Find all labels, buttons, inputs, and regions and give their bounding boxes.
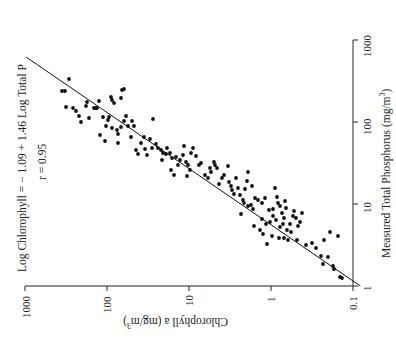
data-point — [258, 228, 262, 232]
data-point — [242, 201, 246, 205]
data-point — [67, 77, 71, 81]
data-point — [189, 151, 193, 155]
data-point — [74, 109, 78, 113]
regression-equation: Log Chlorophyll = − 1.09 + 1.46 Log Tota… — [16, 64, 28, 272]
chlorophyll-axis-title-text: Chlorophyll a (mg/m — [131, 316, 228, 328]
data-point — [136, 152, 140, 156]
data-point — [176, 163, 180, 167]
data-point — [243, 187, 247, 191]
data-point — [150, 146, 154, 150]
data-point — [271, 214, 275, 218]
data-point — [98, 133, 102, 137]
y-tick-100: 100 — [101, 297, 113, 314]
data-point — [292, 209, 296, 213]
data-point — [178, 158, 182, 162]
data-point — [215, 166, 219, 170]
data-point — [101, 115, 105, 119]
data-point — [126, 124, 130, 128]
data-point — [322, 238, 326, 242]
data-point — [222, 173, 226, 177]
scatter-chart — [0, 0, 396, 345]
data-point — [107, 115, 111, 119]
y-tick-1000: 1000 — [20, 296, 32, 318]
data-point — [282, 236, 286, 240]
data-point — [194, 154, 198, 158]
data-point — [154, 142, 158, 146]
data-point — [251, 207, 255, 211]
data-point — [319, 254, 323, 258]
data-point — [71, 106, 75, 110]
data-point — [265, 242, 269, 246]
superscript: 3 — [127, 321, 131, 330]
data-point — [245, 179, 249, 183]
y-tick-1: 1 — [265, 297, 277, 303]
data-point — [314, 246, 318, 250]
data-point — [227, 180, 231, 184]
data-point — [103, 139, 107, 143]
data-point — [277, 236, 281, 240]
data-point — [191, 146, 195, 150]
data-point — [182, 144, 186, 148]
data-point — [119, 96, 123, 100]
data-point — [145, 153, 149, 157]
data-point — [274, 218, 278, 222]
regression-line — [26, 57, 360, 286]
data-point — [148, 137, 152, 141]
chlorophyll-axis-title: Chlorophyll a (mg/m3) — [123, 316, 228, 330]
data-point — [326, 255, 330, 259]
data-point — [273, 186, 277, 190]
data-point — [115, 128, 119, 132]
data-point — [132, 124, 136, 128]
data-point — [208, 166, 212, 170]
data-point — [84, 104, 88, 108]
y-tick-0.1: 0.1 — [347, 296, 359, 310]
data-point — [321, 262, 325, 266]
data-point — [87, 116, 91, 120]
data-point — [289, 230, 293, 234]
data-point — [229, 184, 233, 188]
data-point — [169, 168, 173, 172]
data-point — [165, 146, 169, 150]
correlation-coefficient: r = 0.95 — [36, 144, 48, 180]
x-tick-1: 1 — [361, 286, 373, 292]
data-point — [336, 234, 340, 238]
data-point — [63, 89, 67, 93]
data-point — [288, 222, 292, 226]
data-point — [310, 241, 314, 245]
data-point — [174, 155, 178, 159]
data-point — [295, 238, 299, 242]
data-point — [142, 135, 146, 139]
data-point — [209, 170, 213, 174]
data-point — [267, 208, 271, 212]
data-point — [286, 238, 290, 242]
data-point — [97, 99, 101, 103]
data-point — [199, 161, 203, 165]
data-point — [239, 212, 243, 216]
data-point — [112, 101, 116, 105]
data-point — [238, 193, 242, 197]
data-point — [281, 222, 285, 226]
data-point — [172, 173, 176, 177]
data-point — [280, 211, 284, 215]
data-point — [217, 182, 221, 186]
data-point — [110, 126, 114, 130]
data-point — [85, 100, 89, 104]
data-point — [139, 141, 143, 145]
x-tick-100: 100 — [361, 119, 373, 136]
data-point — [246, 170, 250, 174]
data-point — [260, 201, 264, 205]
data-point — [230, 188, 234, 192]
data-point — [77, 114, 81, 118]
data-point — [340, 276, 344, 280]
data-point — [129, 135, 133, 139]
data-point — [261, 232, 265, 236]
data-point — [304, 243, 308, 247]
data-point — [134, 148, 138, 152]
data-point — [226, 164, 230, 168]
data-point — [188, 168, 192, 172]
data-point — [124, 114, 128, 118]
data-point — [298, 220, 302, 224]
data-point — [332, 267, 336, 271]
data-point — [270, 234, 274, 238]
data-point — [275, 195, 279, 199]
